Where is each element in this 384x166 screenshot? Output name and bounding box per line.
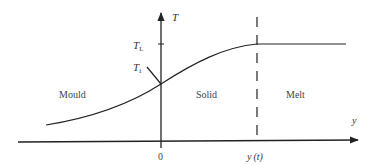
region-solid-label: Solid bbox=[196, 89, 217, 100]
tl-subscript: L bbox=[139, 45, 143, 53]
interface-position-label: y(t) bbox=[246, 151, 264, 163]
ti-leader-line bbox=[147, 67, 161, 84]
y-axis-label: y bbox=[351, 115, 357, 126]
temperature-profile-diagram: T TL Ti Mould Solid Melt 0 y(t) y bbox=[0, 0, 384, 166]
interface-position-arg: (t) bbox=[253, 151, 263, 163]
interface-position-symbol: y bbox=[246, 151, 252, 162]
region-mould-label: Mould bbox=[59, 89, 86, 100]
t-axis-label: T bbox=[172, 11, 179, 23]
ti-label: Ti bbox=[133, 61, 141, 75]
origin-label: 0 bbox=[158, 151, 163, 162]
y-axis bbox=[18, 140, 358, 142]
ti-subscript: i bbox=[139, 67, 141, 75]
region-melt-label: Melt bbox=[286, 89, 305, 100]
tl-label: TL bbox=[133, 39, 143, 53]
temperature-curve bbox=[46, 44, 346, 125]
